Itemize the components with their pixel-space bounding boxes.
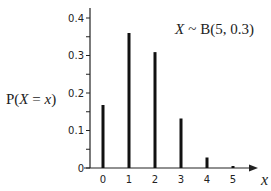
x-axis-arrow-icon [249,165,258,172]
y-label-eq: = [29,91,45,107]
y-tick-label: 0.4 [68,13,84,24]
bar-x-1 [128,33,131,168]
title-dist: B(5, 0.3) [200,21,254,38]
x-tick-label: 2 [152,174,158,185]
y-tick-label: 0 [78,163,84,174]
bar-x-3 [180,119,183,169]
x-tick-label: 0 [100,174,106,185]
y-label-prefix: P( [6,91,19,108]
bar-x-2 [154,52,157,168]
x-tick-label: 3 [178,174,184,185]
bars [102,33,235,168]
x-tick-label: 4 [204,174,210,185]
bar-x-5 [232,166,235,168]
binomial-chart: 00.10.20.30.4 012345 x P(X = x) X~B(5, 0… [0,0,271,191]
x-ticks: 012345 [100,174,236,185]
title-tilde: ~ [188,21,196,37]
y-axis-label: P(X = x) [6,91,56,108]
x-tick-label: 5 [230,174,236,185]
chart-title: X~B(5, 0.3) [174,21,254,38]
y-tick-label: 0.1 [68,125,84,136]
y-tick-label: 0.3 [68,50,84,61]
x-axis-label: x [260,171,268,188]
bar-x-0 [102,105,105,168]
y-ticks: 00.10.20.30.4 [68,13,90,174]
y-tick-label: 0.2 [68,88,84,99]
y-label-suffix: ) [51,91,56,108]
x-tick-label: 1 [126,174,132,185]
bar-x-4 [206,158,209,169]
title-var: X [174,21,185,37]
